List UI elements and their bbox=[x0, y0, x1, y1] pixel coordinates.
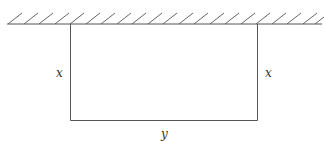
label-left-x: x bbox=[56, 66, 63, 80]
wall-hatching bbox=[8, 13, 324, 24]
label-bottom-y: y bbox=[160, 127, 168, 141]
fence-diagram: x x y bbox=[0, 0, 324, 141]
fence-rectangle bbox=[71, 24, 258, 121]
label-right-x: x bbox=[265, 66, 272, 80]
